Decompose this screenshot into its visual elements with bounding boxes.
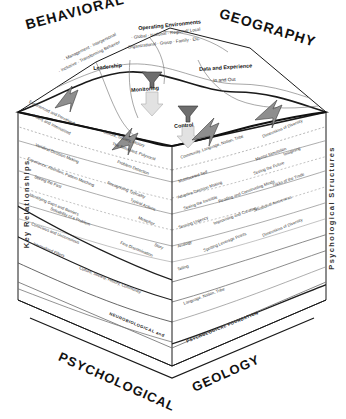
axis-label-key-relationships: Key Relationships bbox=[23, 149, 31, 259]
diagram-canvas: BEHAVIORAL GEOGRAPHY PSYCHOLOGICAL GEOLO… bbox=[0, 0, 346, 419]
axis-label-psychological-structures: Psychological Structures bbox=[328, 143, 336, 273]
